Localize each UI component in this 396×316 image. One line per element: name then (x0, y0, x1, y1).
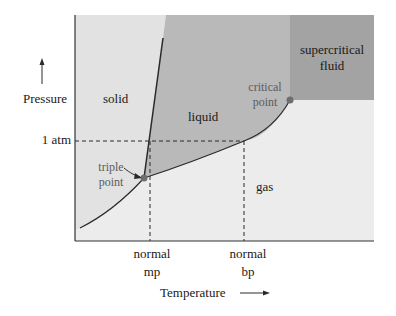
triple-point-label-line1: triple (98, 160, 123, 174)
normal-mp-label-line2: mp (144, 264, 161, 279)
y-axis-label: Pressure (23, 91, 67, 106)
pressure-arrow-up-icon (40, 58, 45, 65)
normal-bp-label-line2: bp (242, 264, 255, 279)
gas-label: gas (256, 179, 273, 194)
liquid-label: liquid (188, 109, 219, 124)
critical-point-label-line1: critical (248, 80, 282, 94)
supercritical-label-line2: fluid (320, 58, 345, 73)
x-axis-label: Temperature (160, 285, 226, 300)
triple-point-label-line2: point (99, 175, 124, 189)
critical-point-label-line2: point (253, 95, 278, 109)
one-atm-tick-label: 1 atm (42, 132, 71, 147)
normal-bp-label-line1: normal (230, 246, 267, 261)
temperature-arrow-right-icon (263, 291, 270, 296)
supercritical-label-line1: supercritical (300, 42, 365, 57)
normal-mp-label-line1: normal (134, 246, 171, 261)
critical-point-marker (287, 97, 294, 104)
phase-diagram: solid liquid gas supercritical fluid tri… (0, 0, 396, 316)
solid-label: solid (103, 91, 129, 106)
